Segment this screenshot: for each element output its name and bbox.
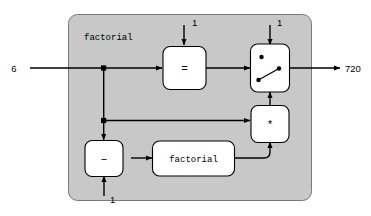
page-title: factorial bbox=[84, 33, 133, 43]
factorial-dataflow-diagram: = * − factorial factorial 6 720 1 1 1 bbox=[0, 0, 371, 216]
recursive-factorial-label: factorial bbox=[169, 155, 218, 165]
diagram-canvas: = * − factorial factorial 6 720 1 1 1 bbox=[0, 0, 371, 216]
equality-test-label: = bbox=[181, 63, 188, 75]
constant-one-equals: 1 bbox=[192, 17, 197, 28]
junction-dot-lower bbox=[101, 118, 106, 123]
constant-one-subtract: 1 bbox=[110, 194, 115, 205]
switch-block[interactable] bbox=[251, 44, 290, 92]
constant-one-switch: 1 bbox=[277, 17, 282, 28]
subtract-label: − bbox=[101, 154, 108, 166]
input-value-label: 6 bbox=[11, 63, 16, 74]
multiply-label: * bbox=[267, 119, 274, 131]
junction-dot-upper bbox=[101, 65, 106, 70]
switch-upper-contact-icon bbox=[259, 55, 263, 59]
output-value-label: 720 bbox=[345, 63, 361, 74]
